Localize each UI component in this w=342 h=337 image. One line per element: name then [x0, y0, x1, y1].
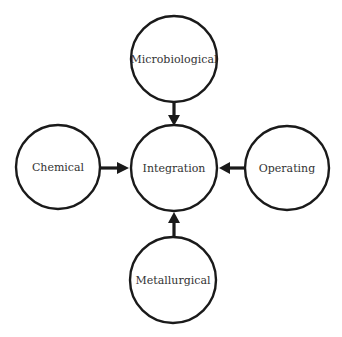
node-chemical: Chemical: [16, 125, 100, 209]
node-label: Microbiological: [131, 53, 218, 66]
node-label: Metallurgical: [136, 274, 211, 287]
node-label: Chemical: [32, 161, 85, 174]
arrow-microbiological-to-integration: [168, 102, 180, 126]
node-microbiological: Microbiological: [131, 16, 218, 102]
node-operating: Operating: [245, 126, 329, 210]
arrow-chemical-to-integration: [100, 162, 129, 174]
node-label: Operating: [259, 162, 315, 175]
node-integration: Integration: [131, 125, 217, 211]
diagram-canvas: Microbiological Integration Chemical Ope…: [0, 0, 342, 337]
node-metallurgical: Metallurgical: [130, 237, 216, 323]
node-label: Integration: [143, 162, 206, 175]
arrow-operating-to-integration: [219, 162, 245, 174]
arrow-metallurgical-to-integration: [168, 212, 180, 237]
